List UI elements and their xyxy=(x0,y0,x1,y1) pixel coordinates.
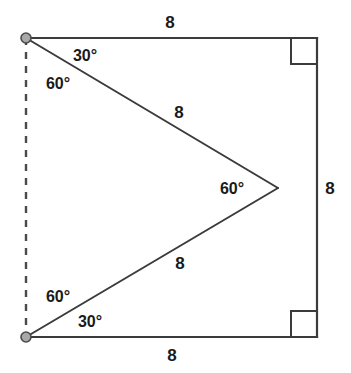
label-angle-top-60: 60° xyxy=(46,76,70,92)
label-right-side-length: 8 xyxy=(325,180,334,197)
vertex-dot-bottom-left xyxy=(21,332,31,342)
label-angle-apex-60: 60° xyxy=(220,181,244,197)
figure-canvas xyxy=(0,0,351,373)
label-angle-bottom-30: 30° xyxy=(78,314,102,330)
right-angle-marker-top-right xyxy=(291,38,317,64)
segment-upper-diagonal xyxy=(26,38,278,188)
label-lower-diagonal-length: 8 xyxy=(175,255,184,272)
label-angle-bottom-60: 60° xyxy=(46,289,70,305)
label-bottom-side-length: 8 xyxy=(167,347,176,364)
vertex-dot-top-left xyxy=(21,33,31,43)
right-angle-marker-bottom-right xyxy=(291,311,317,337)
label-angle-top-30: 30° xyxy=(73,48,97,64)
label-upper-diagonal-length: 8 xyxy=(174,104,183,121)
geometry-figure: 8 8 8 8 8 30° 60° 60° 60° 30° xyxy=(0,0,351,373)
segment-lower-diagonal xyxy=(26,188,278,337)
label-top-side-length: 8 xyxy=(165,14,174,31)
